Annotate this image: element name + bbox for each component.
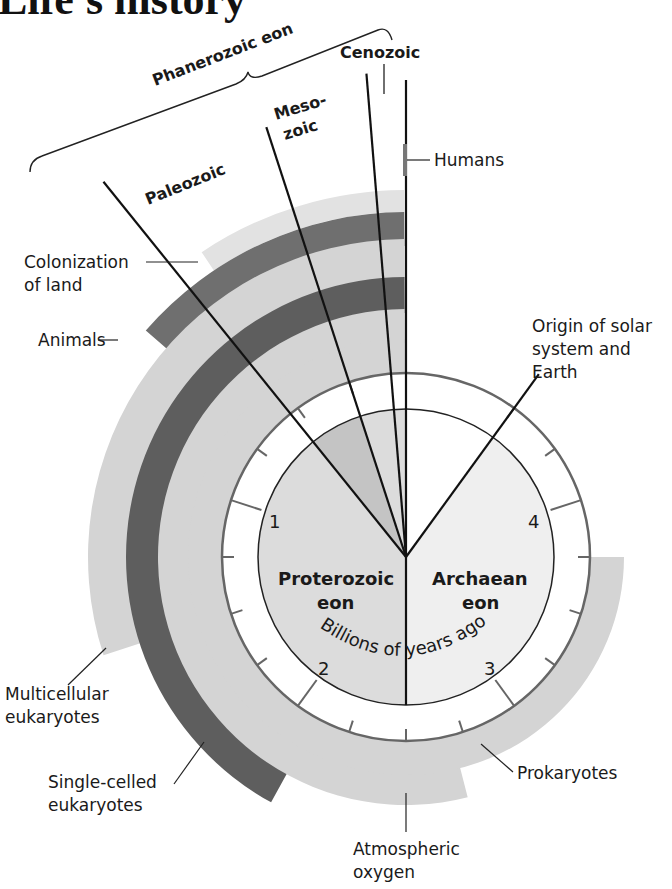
prokaryotes-label: Prokaryotes bbox=[517, 763, 618, 783]
cenozoic-label: Cenozoic bbox=[340, 43, 420, 62]
proterozoic-label-2: eon bbox=[317, 592, 354, 613]
tick-label-2: 2 bbox=[318, 658, 329, 679]
archaean-label-1: Archaean bbox=[432, 568, 528, 589]
single-celled-label-2: eukaryotes bbox=[48, 795, 143, 815]
origin-label-1: Origin of solar bbox=[532, 316, 652, 336]
oxygen-label-1: Atmospheric bbox=[353, 839, 460, 859]
humans-label: Humans bbox=[434, 150, 504, 170]
single-celled-label-1: Single-celled bbox=[48, 772, 157, 792]
archaean-label-2: eon bbox=[462, 592, 499, 613]
multicellular-leader bbox=[68, 648, 106, 685]
origin-label-2: system and bbox=[532, 339, 631, 359]
tick-label-4: 4 bbox=[528, 511, 539, 532]
paleozoic-label: Paleozoic bbox=[142, 159, 228, 208]
humans-marker bbox=[403, 144, 407, 176]
geologic-clock-diagram: Phanerozoic eon Cenozoic Meso- zoic Pale… bbox=[0, 0, 672, 889]
multicellular-label-1: Multicellular bbox=[5, 684, 109, 704]
tick-label-1: 1 bbox=[269, 511, 280, 532]
single-celled-leader bbox=[174, 742, 204, 784]
colonization-label-1: Colonization bbox=[24, 252, 129, 272]
tick-label-3: 3 bbox=[484, 658, 495, 679]
proterozoic-label-1: Proterozoic bbox=[278, 568, 394, 589]
animals-label: Animals bbox=[38, 330, 106, 350]
phanerozoic-label: Phanerozoic eon bbox=[150, 19, 296, 90]
multicellular-label-2: eukaryotes bbox=[5, 707, 100, 727]
origin-label-3: Earth bbox=[532, 362, 578, 382]
oxygen-label-2: oxygen bbox=[353, 862, 415, 882]
colonization-label-2: of land bbox=[24, 275, 83, 295]
